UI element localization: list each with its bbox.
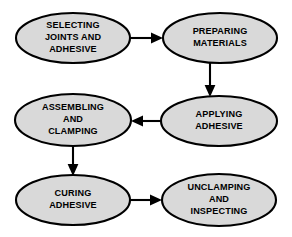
edge-preparing-to-applying <box>205 63 216 97</box>
edge-applying-to-assembling <box>131 116 161 127</box>
node-label-line1: SELECTING <box>46 20 99 30</box>
node-unclamping-and-inspecting[interactable]: UNCLAMPING AND INSPECTING <box>162 174 276 226</box>
node-label-line1: PREPARING <box>193 26 248 36</box>
node-label-line2: ADHESIVE <box>49 200 97 210</box>
node-applying-adhesive[interactable]: APPLYING ADHESIVE <box>161 96 277 146</box>
node-preparing-materials[interactable]: PREPARING MATERIALS <box>163 13 277 63</box>
node-label-line3: INSPECTING <box>190 206 247 216</box>
flowchart-diagram: SELECTING JOINTS AND ADHESIVE PREPARING … <box>0 0 292 237</box>
node-assembling-and-clamping[interactable]: ASSEMBLING AND CLAMPING <box>15 94 131 146</box>
node-label-line1: CURING <box>55 188 92 198</box>
arrowhead-right-icon <box>150 195 162 206</box>
edge-selecting-to-preparing <box>130 33 163 44</box>
node-label-line2: MATERIALS <box>193 38 247 48</box>
node-label-line1: APPLYING <box>196 109 243 119</box>
node-label-line3: ADHESIVE <box>49 44 97 54</box>
node-selecting-joints-and-adhesive[interactable]: SELECTING JOINTS AND ADHESIVE <box>16 13 130 63</box>
arrowhead-right-icon <box>151 33 163 44</box>
node-curing-adhesive[interactable]: CURING ADHESIVE <box>16 175 130 225</box>
node-label-line2: JOINTS AND <box>45 32 102 42</box>
edge-assembling-to-curing <box>68 146 79 176</box>
node-label-line1: UNCLAMPING <box>187 182 250 192</box>
flowchart-canvas: SELECTING JOINTS AND ADHESIVE PREPARING … <box>0 0 292 237</box>
arrowhead-left-icon <box>131 116 143 127</box>
node-label-line1: ASSEMBLING <box>42 102 104 112</box>
node-label-line2: AND <box>63 114 83 124</box>
node-label-line3: CLAMPING <box>48 126 98 136</box>
edge-curing-to-unclamping <box>130 195 162 206</box>
node-label-line2: AND <box>209 194 229 204</box>
node-label-line2: ADHESIVE <box>195 121 243 131</box>
